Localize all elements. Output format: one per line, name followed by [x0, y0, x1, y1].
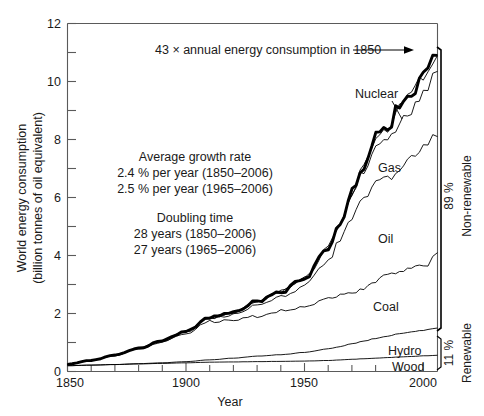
y-axis-subtitle: (billion tonnes of oil equivalent) — [31, 112, 45, 284]
y-tick-label: 6 — [54, 191, 61, 205]
series-label-coal: Coal — [373, 300, 399, 314]
series-label-hydro: Hydro — [388, 344, 421, 358]
bracket-pct-renewable: 11 % — [442, 339, 456, 366]
x-tick-label: 2000 — [409, 376, 437, 390]
y-axis-title: World energy consumption — [15, 124, 29, 273]
x-tick-label: 1850 — [56, 376, 84, 390]
series-label-oil: Oil — [378, 232, 393, 246]
stats-doubling-line-1: 28 years (1850–2006) — [134, 227, 256, 241]
y-tick-label: 12 — [47, 17, 61, 31]
stats-doubling-line-2: 27 years (1965–2006) — [134, 243, 256, 257]
peak-annotation-text: 43 × annual energy consumption in 1850 — [155, 43, 381, 57]
y-tick-label: 2 — [54, 307, 61, 321]
stats-doubling-title: Doubling time — [157, 211, 233, 225]
y-tick-label: 8 — [54, 133, 61, 147]
bracket-label-non-renewable: Non-renewable — [460, 155, 474, 237]
stats-block-growth: Average growth rate 2.4 % per year (1850… — [117, 150, 273, 196]
bracket-pct-non-renewable: 89 % — [442, 182, 456, 210]
series-label-gas: Gas — [378, 161, 401, 175]
stats-growth-title: Average growth rate — [139, 150, 251, 164]
stats-growth-line-2: 2.5 % per year (1965–2006) — [117, 182, 273, 196]
y-tick-label: 10 — [47, 75, 61, 89]
series-label-nuclear: Nuclear — [355, 87, 398, 101]
energy-consumption-chart: 0 2 4 6 8 10 12 1850 1900 1950 2000 Year… — [0, 0, 484, 416]
y-tick-label: 4 — [54, 249, 61, 263]
x-axis-title: Year — [217, 395, 242, 409]
chart-figure: 0 2 4 6 8 10 12 1850 1900 1950 2000 Year… — [0, 0, 484, 416]
x-tick-label: 1900 — [172, 376, 200, 390]
x-tick-label: 1950 — [290, 376, 318, 390]
bracket-label-renewable: Renewable — [460, 323, 474, 383]
stats-growth-line-1: 2.4 % per year (1850–2006) — [117, 166, 273, 180]
series-label-wood: Wood — [392, 360, 424, 374]
